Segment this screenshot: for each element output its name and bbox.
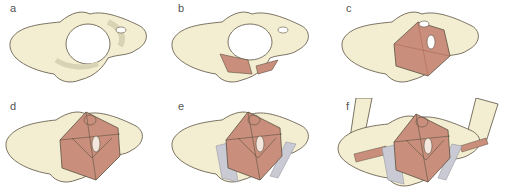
panel-f: f xyxy=(336,98,504,196)
pelvis-bone-illustration xyxy=(0,0,168,98)
perineal-muscles-illustration xyxy=(0,98,168,196)
panel-d: d xyxy=(0,98,168,196)
panel-c: c xyxy=(336,0,504,98)
pelvis-femur-illustration xyxy=(336,98,504,196)
panel-b: b xyxy=(168,0,336,98)
levator-ani-illustration xyxy=(336,0,504,98)
panel-a: a xyxy=(0,0,168,98)
perineal-fascia-illustration xyxy=(168,98,336,196)
panel-e: e xyxy=(168,98,336,196)
pelvis-posterior-muscles-illustration xyxy=(168,0,336,98)
